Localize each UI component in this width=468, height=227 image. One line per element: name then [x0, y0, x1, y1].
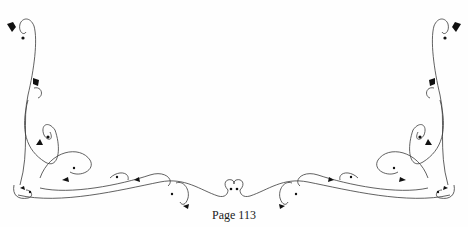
page-number: Page 113 — [0, 208, 468, 223]
right-vine-ornament — [240, 19, 461, 209]
left-vine-ornament — [7, 19, 228, 209]
center-heart-knot-icon — [225, 180, 243, 191]
decorative-vine-border-icon — [0, 0, 468, 227]
document-page: Page 113 — [0, 0, 468, 227]
